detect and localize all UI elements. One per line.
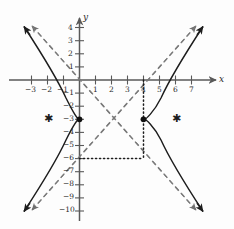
- y-tick-label-neg7: −7: [63, 167, 74, 175]
- x-tick-label-3: 3: [125, 86, 130, 94]
- y-tick-label-neg1: −1: [63, 89, 74, 97]
- y-tick-label-neg6: −6: [63, 154, 74, 162]
- x-tick-label-neg3: −3: [25, 86, 36, 94]
- plot-canvas: [0, 0, 234, 229]
- y-tick-label-4: 4: [68, 24, 73, 32]
- y-tick-label-3: 3: [68, 37, 73, 45]
- y-tick-label-neg5: −5: [63, 141, 74, 149]
- x-tick-label-1: 1: [93, 86, 98, 94]
- vertex-point-left: [77, 116, 83, 122]
- x-tick-label-7: 7: [189, 86, 194, 94]
- x-axis-label: x: [219, 75, 224, 84]
- y-tick-label-neg8: −8: [63, 180, 74, 188]
- hyperbola-left-branch-arrow-top: [24, 27, 30, 36]
- x-tick-label-4: 4: [141, 86, 146, 94]
- y-tick-label-neg3: −3: [63, 115, 74, 123]
- vertex-point-right: [141, 116, 147, 122]
- x-tick-label-neg2: −2: [41, 86, 52, 94]
- hyperbola-left-branch-arrow-bottom: [24, 203, 30, 212]
- y-axis-label: y: [83, 13, 88, 22]
- hyperbola-right-branch-arrow-top: [197, 27, 203, 36]
- hyperbola-figure: −3 −2 −1 1 2 3 4 5 6 7 4 3 2 1 −1 −2 −3 …: [0, 0, 234, 229]
- y-tick-label-neg10: −10: [59, 206, 75, 214]
- y-tick-label-neg2: −2: [63, 102, 74, 110]
- y-tick-label-neg9: −9: [63, 193, 74, 201]
- x-tick-label-5: 5: [157, 86, 162, 94]
- y-tick-label-1: 1: [69, 63, 74, 71]
- y-tick-label-2: 2: [68, 50, 73, 58]
- x-tick-label-2: 2: [109, 86, 114, 94]
- x-tick-label-6: 6: [173, 86, 178, 94]
- focus-marker-left: ✱: [44, 113, 53, 124]
- y-tick-label-neg4: −4: [63, 128, 74, 136]
- focus-marker-right: ✱: [172, 113, 181, 124]
- hyperbola-right-branch-arrow-bottom: [197, 203, 203, 212]
